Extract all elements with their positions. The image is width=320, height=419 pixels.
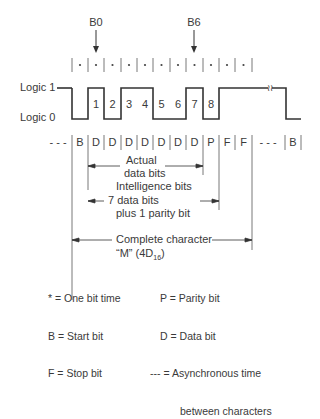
async-gap: - - - [259, 136, 276, 148]
bit-number: 7 [191, 98, 197, 110]
bit-number: 2 [109, 98, 115, 110]
legend-left: * = One bit time B = Start bit F = Stop … [48, 267, 121, 392]
bit-cell: D [141, 136, 149, 148]
bit-number: 1 [93, 98, 99, 110]
actual-data-bits-label: Actual [126, 154, 157, 166]
logic1-label: Logic 1 [20, 81, 55, 93]
svg-text:data bits: data bits [124, 167, 166, 179]
bit-cell: D [92, 136, 100, 148]
bit-cell: F [240, 136, 247, 148]
svg-text:7 data bits: 7 data bits [108, 194, 159, 206]
legend-right: P = Parity bit D = Data bit --- = Asynch… [150, 267, 272, 419]
bit-number: 4 [142, 98, 148, 110]
bit-cell: P [207, 136, 214, 148]
logic0-label: Logic 0 [20, 111, 55, 123]
bit-cell-next-start: B [289, 136, 296, 148]
bit-cell: B [76, 136, 83, 148]
bit-number: 6 [175, 98, 181, 110]
bit-number: 8 [208, 98, 214, 110]
svg-text:plus 1 parity bit: plus 1 parity bit [116, 207, 190, 219]
bit-cell: F [224, 136, 231, 148]
time-break-icon: ≀≀ [267, 83, 273, 93]
b6-arrowhead-icon [191, 46, 197, 53]
intelligence-bits-label: Intelligence bits [116, 180, 192, 192]
bit-cell: D [125, 136, 133, 148]
b6-label: B6 [187, 16, 200, 28]
b0-arrowhead-icon [93, 46, 99, 53]
bit-number: 5 [158, 98, 164, 110]
bit-cell: D [158, 136, 166, 148]
bit-cell: D [109, 136, 117, 148]
complete-character-label: Complete character [116, 233, 212, 245]
waveform [72, 88, 268, 119]
bit-number: 3 [126, 98, 132, 110]
async-gap-leading: - - - [49, 136, 66, 148]
bit-cell: D [174, 136, 182, 148]
b0-label: B0 [89, 16, 102, 28]
bit-cell: D [191, 136, 199, 148]
character-value: “M” (4D16) [116, 247, 165, 261]
